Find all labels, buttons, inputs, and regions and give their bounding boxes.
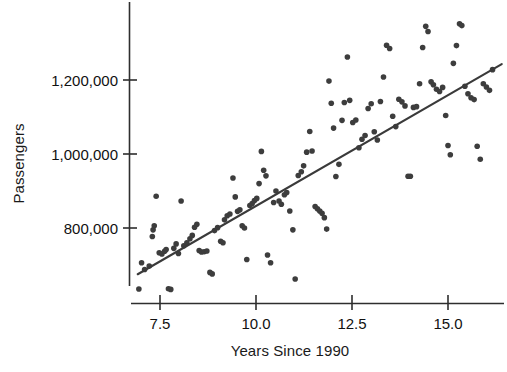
scatter-point [139, 260, 145, 266]
regression-trendline [138, 64, 502, 274]
scatter-point [477, 156, 483, 162]
scatter-point [328, 101, 334, 107]
scatter-point [220, 240, 226, 246]
x-tick-label: 12.5 [337, 315, 366, 332]
scatter-point [471, 97, 477, 103]
scatter-point [290, 227, 296, 233]
scatter-point [271, 200, 277, 206]
scatter-point [345, 54, 351, 60]
scatter-point [402, 103, 408, 109]
scatter-point [244, 257, 250, 263]
scatter-point [151, 223, 157, 229]
scatter-point [425, 29, 431, 35]
scatter-point [178, 198, 184, 204]
y-tick-label: 1,200,000 [51, 72, 118, 89]
scatter-plot-figure: Passengers Years Since 1990 800,0001,000… [0, 0, 507, 372]
scatter-point [194, 222, 200, 228]
scatter-point [333, 174, 339, 180]
scatter-point [443, 113, 449, 119]
scatter-point [336, 162, 342, 168]
scatter-point [459, 23, 465, 29]
scatter-point [445, 143, 451, 149]
scatter-point [408, 173, 414, 179]
scatter-point [309, 148, 315, 154]
scatter-point [423, 24, 429, 30]
scatter-point [440, 85, 446, 91]
x-axis-ticks [160, 295, 448, 310]
scatter-point [365, 106, 371, 112]
scatter-point [347, 98, 353, 104]
scatter-point [371, 129, 377, 135]
scatter-point [322, 215, 328, 221]
scatter-point [390, 113, 396, 119]
scatter-point [381, 74, 387, 80]
scatter-point [265, 252, 271, 258]
scatter-point [227, 211, 233, 217]
scatter-point [339, 118, 345, 124]
scatter-point [307, 129, 313, 135]
scatter-point [232, 194, 238, 200]
scatter-point [237, 207, 243, 213]
scatter-point [136, 286, 142, 292]
scatter-point [448, 152, 454, 158]
x-tick-label: 15.0 [433, 315, 462, 332]
y-tick-label: 800,000 [64, 220, 118, 237]
scatter-point [331, 125, 337, 131]
scatter-point [342, 100, 348, 106]
scatter-point [304, 149, 310, 155]
scatter-point [204, 248, 210, 254]
scatter-point [326, 78, 332, 84]
scatter-point [353, 117, 359, 123]
scatter-point [368, 101, 374, 107]
scatter-point [454, 43, 460, 49]
scatter-point [153, 193, 159, 199]
scatter-point [387, 46, 393, 52]
scatter-point [230, 175, 236, 181]
scatter-point [287, 208, 293, 214]
scatter-point [189, 233, 195, 239]
x-tick-label: 7.5 [150, 315, 171, 332]
scatter-point [242, 225, 248, 231]
scatter-point [324, 226, 330, 232]
scatter-point [362, 133, 368, 139]
scatter-points-group [136, 21, 495, 292]
scatter-point [487, 88, 493, 94]
scatter-point [414, 104, 420, 110]
scatter-point [279, 202, 285, 208]
scatter-point [168, 287, 174, 293]
x-tick-label: 10.0 [241, 315, 270, 332]
scatter-point [173, 241, 179, 247]
scatter-point [299, 169, 305, 175]
scatter-point [259, 149, 265, 155]
scatter-point [378, 99, 384, 105]
scatter-point [474, 143, 480, 149]
scatter-point [292, 276, 298, 282]
scatter-point [420, 45, 426, 51]
scatter-point [451, 61, 457, 67]
scatter-point [263, 173, 269, 179]
scatter-point [301, 163, 307, 169]
scatter-point [417, 81, 423, 87]
x-axis-title: Years Since 1990 [180, 342, 400, 359]
axis-lines [130, 2, 505, 304]
scatter-point [163, 247, 169, 253]
scatter-point [254, 196, 260, 202]
y-axis-title: Passengers [10, 118, 27, 210]
scatter-point [150, 234, 156, 240]
scatter-point [256, 181, 262, 187]
y-tick-label: 1,000,000 [51, 146, 118, 163]
scatter-point [268, 260, 274, 266]
scatter-point [209, 271, 215, 277]
scatter-point [261, 167, 267, 173]
